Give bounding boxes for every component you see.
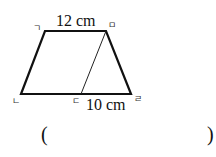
answer-blank[interactable] — [56, 126, 206, 146]
bottom-length-label: 10 cm — [86, 96, 126, 113]
trapezoid-outline — [21, 31, 131, 94]
vertex-label-nieun: ㄴ — [12, 96, 20, 106]
vertex-label-digeut: ㄷ — [72, 96, 80, 106]
top-length-label: 12 cm — [56, 12, 96, 29]
vertex-label-giyeok: ㄱ — [33, 23, 41, 33]
answer-close-paren: ) — [207, 124, 214, 144]
answer-open-paren: ( — [41, 124, 48, 144]
vertex-label-rieul: ㄹ — [134, 94, 142, 104]
vertex-label-mieum: ㅁ — [108, 20, 116, 30]
diagonal-segment — [81, 31, 106, 94]
